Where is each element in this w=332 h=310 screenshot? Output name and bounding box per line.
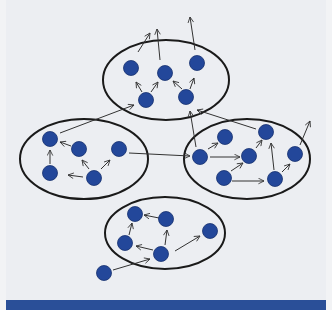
node-r5 (288, 147, 303, 162)
arrows (50, 17, 310, 270)
nodes (43, 56, 303, 281)
arrow (175, 236, 200, 251)
node-b1 (128, 207, 143, 222)
node-r4 (242, 149, 257, 164)
node-b3 (203, 224, 218, 239)
arrow (60, 142, 71, 146)
node-t4 (139, 93, 154, 108)
arrow (256, 140, 262, 148)
node-t5 (179, 90, 194, 105)
arrow (208, 143, 218, 149)
node-b4 (118, 236, 133, 251)
figure-caption-bar (6, 300, 326, 310)
arrow (173, 81, 182, 89)
arrow (271, 143, 274, 170)
arrow (129, 153, 190, 156)
node-l2 (72, 142, 87, 157)
node-r3 (193, 150, 208, 165)
node-l4 (43, 166, 58, 181)
arrow (282, 164, 290, 172)
arrow (129, 223, 132, 235)
arrow (190, 78, 194, 89)
arrow (144, 215, 159, 218)
arrow (151, 82, 158, 92)
arrow (82, 160, 89, 169)
node-l3 (112, 142, 127, 157)
figure (0, 0, 332, 310)
cluster-diagram (0, 0, 332, 310)
arrow (157, 29, 160, 60)
group-ellipse-left (20, 119, 148, 199)
arrow (136, 246, 153, 250)
arrow (190, 17, 195, 50)
node-r7 (268, 172, 283, 187)
node-t1 (124, 61, 139, 76)
node-r1 (218, 130, 233, 145)
node-l1 (43, 132, 58, 147)
node-t3 (190, 56, 205, 71)
arrow (136, 82, 142, 92)
arrow (68, 175, 83, 177)
node-r6 (217, 171, 232, 186)
arrow (101, 160, 110, 169)
node-l5 (87, 171, 102, 186)
node-b6 (97, 266, 112, 281)
node-t2 (158, 66, 173, 81)
node-b5 (154, 247, 169, 262)
node-r2 (259, 125, 274, 140)
arrow (113, 259, 150, 270)
arrow (165, 230, 167, 245)
node-b2 (159, 212, 174, 227)
arrow (231, 163, 243, 171)
